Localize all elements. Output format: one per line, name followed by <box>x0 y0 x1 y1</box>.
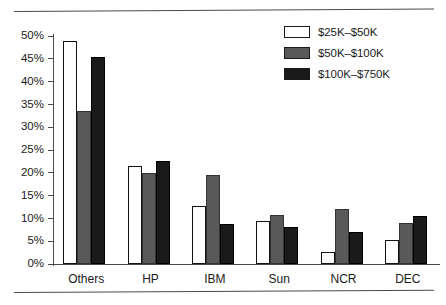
x-axis-label: Sun <box>247 272 311 286</box>
bar-chart-figure: $25K–$50K$50K–$100K$100K–$750K 50%45%40%… <box>0 0 446 305</box>
bar-group <box>192 36 234 264</box>
bar-group <box>256 36 298 264</box>
y-axis-tick-label: 45% <box>21 53 48 65</box>
y-axis-tick-label: 15% <box>21 190 48 202</box>
bar <box>220 224 234 264</box>
bar <box>256 221 270 264</box>
bar-group <box>385 36 427 264</box>
x-axis-label: DEC <box>376 272 440 286</box>
bar-group <box>63 36 105 264</box>
bar <box>206 175 220 264</box>
bar-group <box>128 36 170 264</box>
bar <box>91 57 105 264</box>
bar <box>335 209 349 264</box>
bar <box>192 206 206 264</box>
y-axis-tick-label: 0% <box>27 258 48 270</box>
y-axis-tick-label: 5% <box>27 235 48 247</box>
bar-group <box>321 36 363 264</box>
bar <box>349 232 363 264</box>
y-axis-tick-label: 35% <box>21 99 48 111</box>
bar <box>413 216 427 264</box>
y-axis-tick-label: 20% <box>21 167 48 179</box>
bar <box>63 41 77 264</box>
bar <box>385 240 399 264</box>
bar <box>284 227 298 264</box>
x-axis-label: NCR <box>311 272 375 286</box>
x-axis-label: HP <box>118 272 182 286</box>
y-axis-tick-label: 25% <box>21 144 48 156</box>
page-rule-bottom <box>14 290 434 293</box>
bar <box>142 173 156 264</box>
bar <box>321 252 335 264</box>
x-axis-label: IBM <box>183 272 247 286</box>
bar <box>128 166 142 264</box>
y-axis-tick-label: 50% <box>21 30 48 42</box>
y-axis-tick-label: 30% <box>21 121 48 133</box>
bar <box>77 111 91 264</box>
bar <box>270 215 284 264</box>
bar <box>156 161 170 264</box>
plot-area <box>54 36 440 264</box>
x-axis-line <box>53 264 440 265</box>
page-rule-top <box>14 8 434 12</box>
bar <box>399 223 413 264</box>
y-axis-tick-label: 40% <box>21 76 48 88</box>
y-axis-tick-label: 10% <box>21 213 48 225</box>
x-axis-label: Others <box>54 272 118 286</box>
y-axis-ticks: 50%45%40%35%30%25%20%15%10%5%0% <box>0 36 54 264</box>
